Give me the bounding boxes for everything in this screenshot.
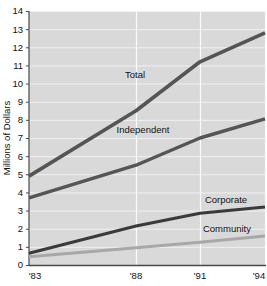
series-label-independent: Independent bbox=[117, 124, 170, 135]
y-tick-label-6: 6 bbox=[18, 151, 23, 162]
y-tick-label-9: 9 bbox=[18, 96, 23, 107]
y-tick-label-1: 1 bbox=[18, 241, 23, 252]
y-axis-title: Millions of Dollars bbox=[1, 101, 12, 176]
y-tick-label-10: 10 bbox=[12, 78, 23, 89]
y-tick-label-14: 14 bbox=[12, 5, 23, 16]
x-axis-ticks: '83'88'91'94 bbox=[29, 270, 265, 281]
y-tick-label-12: 12 bbox=[12, 42, 23, 53]
y-tick-label-4: 4 bbox=[18, 187, 23, 198]
series-label-community: Community bbox=[203, 223, 251, 234]
series-label-total: Total bbox=[125, 69, 145, 80]
y-tick-label-11: 11 bbox=[13, 60, 23, 71]
y-tick-label-13: 13 bbox=[12, 24, 23, 35]
x-tick-label-83: '83 bbox=[29, 270, 41, 281]
y-tick-label-5: 5 bbox=[18, 169, 23, 180]
line-chart: 01234567891011121314 '83'88'91'94 Millio… bbox=[0, 0, 267, 286]
y-tick-label-0: 0 bbox=[18, 259, 23, 270]
x-tick-label-88: '88 bbox=[130, 270, 142, 281]
x-tick-label-94: '94 bbox=[253, 270, 265, 281]
series-label-corporate: Corporate bbox=[205, 194, 247, 205]
y-tick-label-8: 8 bbox=[18, 114, 23, 125]
chart-canvas: 01234567891011121314 '83'88'91'94 Millio… bbox=[0, 0, 267, 286]
y-tick-label-7: 7 bbox=[18, 132, 23, 143]
y-tick-label-3: 3 bbox=[18, 205, 23, 216]
x-tick-label-91: '91 bbox=[194, 270, 206, 281]
y-axis-ticks: 01234567891011121314 bbox=[12, 5, 29, 270]
y-tick-label-2: 2 bbox=[18, 223, 23, 234]
